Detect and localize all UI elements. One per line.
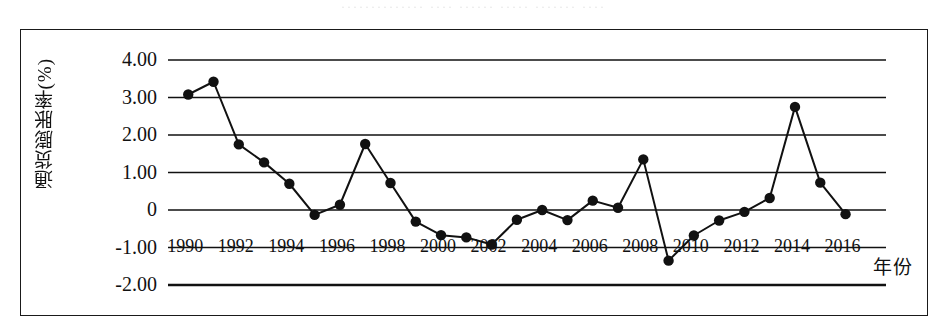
x-tick-label: 1994	[268, 237, 304, 255]
y-tick-label: 1.00	[79, 162, 157, 182]
x-tick-label: 2016	[825, 237, 861, 255]
x-tick-label: 2002	[471, 237, 507, 255]
data-point	[663, 255, 673, 265]
data-point	[562, 215, 572, 225]
line-chart-svg	[21, 30, 929, 317]
data-point	[537, 205, 547, 215]
x-tick-label: 2010	[673, 237, 709, 255]
series-polyline	[188, 82, 845, 261]
data-point	[360, 139, 370, 149]
x-tick-label: 2008	[622, 237, 658, 255]
x-tick-label: 2012	[723, 237, 759, 255]
y-tick-label: 3.00	[79, 87, 157, 107]
x-tick-label: 1996	[319, 237, 355, 255]
data-point	[385, 178, 395, 188]
data-point	[739, 207, 749, 217]
data-point	[335, 200, 345, 210]
x-tick-label: 2000	[420, 237, 456, 255]
data-point	[234, 139, 244, 149]
x-tick-label: 2004	[521, 237, 557, 255]
chart-frame: 通货膨胀率(%) 年份 4.003.002.001.000-1.00-2.00 …	[20, 29, 928, 316]
y-tick-label: 2.00	[79, 124, 157, 144]
x-tick-label: 1998	[369, 237, 405, 255]
x-tick-label: 2014	[774, 237, 810, 255]
data-point	[208, 77, 218, 87]
series-line	[188, 82, 845, 261]
data-point	[765, 193, 775, 203]
data-point	[840, 209, 850, 219]
data-point	[638, 154, 648, 164]
x-tick-label: 1990	[167, 237, 203, 255]
data-point	[714, 215, 724, 225]
data-point	[815, 177, 825, 187]
data-point	[259, 157, 269, 167]
y-tick-label: -2.00	[79, 274, 157, 294]
y-tick-label: 4.00	[79, 49, 157, 69]
y-tick-label: 0	[79, 199, 157, 219]
x-tick-label: 2006	[572, 237, 608, 255]
scan-top-artifact: ·············· ···· ······ ····· ·······…	[0, 0, 947, 16]
x-tick-label: 1992	[218, 237, 254, 255]
y-tick-label: -1.00	[79, 237, 157, 257]
plot-area: 通货膨胀率(%) 年份 4.003.002.001.000-1.00-2.00 …	[21, 30, 927, 315]
data-point	[790, 102, 800, 112]
data-point	[309, 210, 319, 220]
data-point	[588, 195, 598, 205]
data-point	[411, 216, 421, 226]
data-point	[512, 215, 522, 225]
data-point	[183, 89, 193, 99]
data-point	[284, 179, 294, 189]
data-point	[613, 203, 623, 213]
